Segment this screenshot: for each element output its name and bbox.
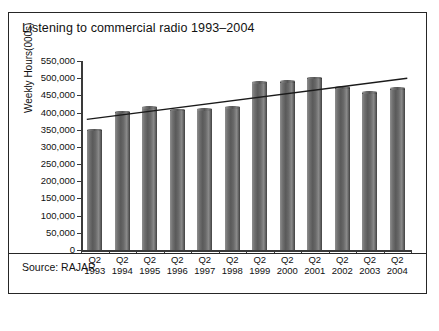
y-tick-label: 350,000 [11,125,75,134]
x-quarter: Q2 [380,254,414,265]
y-tick-label: 400,000 [11,108,75,117]
y-tick-label: 450,000 [11,90,75,99]
y-tick-label: 250,000 [11,159,75,168]
y-tick-label: 50,000 [11,228,75,237]
y-tick-label: 550,000 [11,56,75,65]
x-year: 2004 [380,265,414,276]
y-tick-label: 300,000 [11,142,75,151]
x-axis-labels: Q21993Q21994Q21995Q21996Q21997Q21998Q219… [81,254,411,280]
y-axis-label: Weekly Hours(000s) [23,23,34,113]
trend-line [81,61,411,250]
chart-figure: Listening to commercial radio 1993–2004 … [8,12,427,294]
plot-area: Weekly Hours(000s) 050,000100,000150,000… [81,61,411,264]
y-tick-label: 200,000 [11,176,75,185]
x-tick-label: Q22004 [380,254,414,276]
y-tick-label: 500,000 [11,73,75,82]
y-tick-label: 100,000 [11,211,75,220]
chart-title: Listening to commercial radio 1993–2004 [22,21,255,35]
source-divider [9,253,426,254]
y-tick-label: 150,000 [11,193,75,202]
source-note: Source: RAJAR [22,261,96,273]
